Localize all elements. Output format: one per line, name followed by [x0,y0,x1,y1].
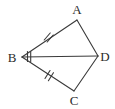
diagonal-bd [22,56,98,57]
segment-dc [74,56,98,91]
vertex-label-d: D [100,49,109,64]
geometry-figure-container: A B C D [0,0,115,109]
geometry-diagram: A B C D [0,0,115,109]
tick-marks-bc [45,71,53,81]
vertex-label-c: C [70,93,79,108]
vertex-label-b: B [8,50,17,65]
segment-ad [77,20,98,56]
vertex-label-a: A [72,2,82,17]
